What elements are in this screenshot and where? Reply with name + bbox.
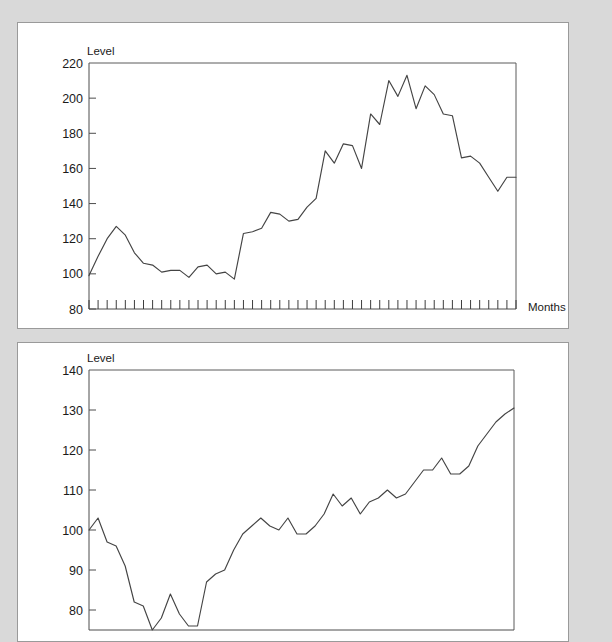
y-tick-label: 100 [62, 524, 83, 538]
y-tick-label: 140 [62, 197, 83, 211]
y-tick-label: 140 [62, 364, 83, 378]
y-tick-label: 160 [62, 162, 83, 176]
data-series-line [89, 408, 514, 630]
x-axis-label: Months [528, 301, 566, 313]
y-tick-label: 90 [69, 564, 83, 578]
y-tick-label: 220 [62, 57, 83, 71]
upper-chart-panel: Level22020018016014012010080Months [17, 22, 569, 329]
y-tick-label: 80 [69, 303, 83, 317]
y-tick-label: 120 [62, 232, 83, 246]
y-axis-label: Level [87, 352, 115, 364]
y-tick-label: 80 [69, 604, 83, 618]
upper-chart-svg: Level22020018016014012010080Months [18, 23, 568, 328]
y-axis-label: Level [87, 45, 115, 57]
y-tick-label: 100 [62, 267, 83, 281]
y-tick-label: 180 [62, 127, 83, 141]
y-tick-label: 120 [62, 444, 83, 458]
lower-chart-svg: Level1401301201101009080 [18, 343, 568, 641]
y-tick-label: 110 [63, 484, 83, 498]
data-series-line [89, 75, 516, 279]
y-tick-label: 200 [62, 92, 83, 106]
y-tick-label: 130 [62, 404, 83, 418]
lower-chart-panel: Level1401301201101009080 [17, 342, 569, 642]
